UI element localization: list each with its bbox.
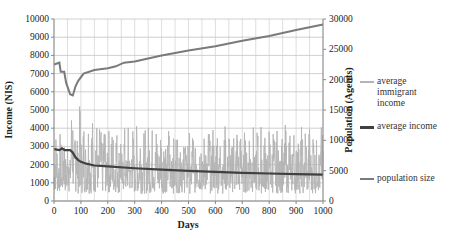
svg-text:300: 300 xyxy=(128,206,143,216)
svg-text:700: 700 xyxy=(235,206,250,216)
y-axis-ticks: 0100020003000400050006000700080009000100… xyxy=(25,14,54,206)
svg-text:6000: 6000 xyxy=(30,87,49,97)
svg-text:10000: 10000 xyxy=(25,14,49,24)
svg-text:1000: 1000 xyxy=(314,206,333,216)
svg-text:3000: 3000 xyxy=(30,141,49,151)
x-axis-title: Days xyxy=(177,219,198,230)
y2-axis-title: Population (Agents) xyxy=(343,67,355,152)
svg-text:0: 0 xyxy=(52,206,57,216)
svg-text:100: 100 xyxy=(74,206,89,216)
svg-text:5000: 5000 xyxy=(329,166,348,176)
svg-text:400: 400 xyxy=(154,206,169,216)
svg-text:9000: 9000 xyxy=(30,32,49,42)
svg-text:5000: 5000 xyxy=(30,105,49,115)
svg-text:900: 900 xyxy=(289,206,304,216)
legend-item-average-income: average income xyxy=(360,121,437,132)
x-axis-ticks: 01002003004005006007008009001000 xyxy=(52,201,333,216)
svg-text:0: 0 xyxy=(44,196,49,206)
y-axis-title: Income (NIS) xyxy=(3,81,15,139)
svg-text:500: 500 xyxy=(181,206,196,216)
svg-text:800: 800 xyxy=(262,206,277,216)
legend-item-population-size: population size xyxy=(360,173,435,184)
svg-text:0: 0 xyxy=(329,196,334,206)
legend-swatch-icon xyxy=(360,178,374,180)
svg-text:600: 600 xyxy=(208,206,223,216)
legend-swatch-icon xyxy=(360,126,374,129)
legend-item-average-immigrant-income: average immigrant income xyxy=(360,76,417,109)
legend-label: population size xyxy=(377,173,435,184)
svg-text:7000: 7000 xyxy=(30,69,49,79)
svg-text:1000: 1000 xyxy=(30,178,49,188)
svg-text:25000: 25000 xyxy=(329,44,353,54)
legend-swatch-icon xyxy=(360,81,374,83)
svg-text:8000: 8000 xyxy=(30,50,49,60)
legend-label: average income xyxy=(377,121,437,132)
svg-text:4000: 4000 xyxy=(30,123,49,133)
svg-text:30000: 30000 xyxy=(329,14,353,24)
svg-text:200: 200 xyxy=(101,206,116,216)
legend: average immigrant income average income … xyxy=(360,0,458,240)
legend-label: average immigrant income xyxy=(377,76,417,109)
svg-text:2000: 2000 xyxy=(30,160,49,170)
